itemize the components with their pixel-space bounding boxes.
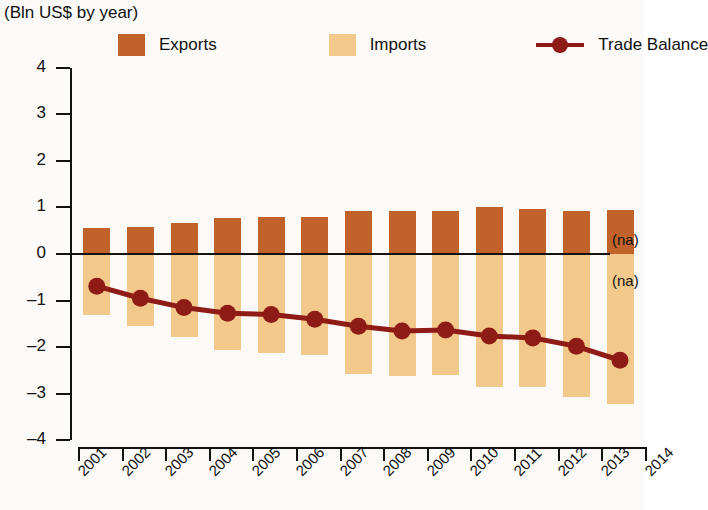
y-tick-label: 4 xyxy=(18,57,46,77)
y-tick-label: –3 xyxy=(18,383,46,403)
bar-imports-2001 xyxy=(83,254,110,315)
bar-exports-2004 xyxy=(214,218,241,254)
y-tick-label: –2 xyxy=(18,336,46,356)
x-tick-mark xyxy=(340,447,342,461)
y-tick-label: 1 xyxy=(18,196,46,216)
bar-imports-2009 xyxy=(432,254,459,375)
y-tick-mark xyxy=(56,300,70,302)
bar-exports-2005 xyxy=(258,217,285,254)
y-tick-label: 3 xyxy=(18,103,46,123)
y-tick-mark xyxy=(56,160,70,162)
x-tick-mark xyxy=(78,447,80,461)
bar-exports-2010 xyxy=(476,207,503,254)
na-annotation: (na) xyxy=(612,231,639,248)
x-tick-mark xyxy=(601,447,603,461)
y-tick-mark xyxy=(56,393,70,395)
y-tick-label: –4 xyxy=(18,429,46,449)
x-tick-mark xyxy=(558,447,560,461)
x-tick-mark xyxy=(122,447,124,461)
x-tick-mark xyxy=(645,447,647,461)
x-tick-mark xyxy=(470,447,472,461)
y-tick-mark xyxy=(56,113,70,115)
bar-imports-2006 xyxy=(301,254,328,355)
bar-imports-2007 xyxy=(345,254,372,374)
bar-exports-2003 xyxy=(171,223,198,254)
x-tick-mark xyxy=(514,447,516,461)
x-tick-mark xyxy=(427,447,429,461)
bar-imports-2002 xyxy=(127,254,154,326)
y-tick-mark xyxy=(56,346,70,348)
x-tick-mark xyxy=(296,447,298,461)
bar-exports-2008 xyxy=(389,211,416,254)
bar-imports-2012 xyxy=(563,254,590,397)
bar-exports-2002 xyxy=(127,227,154,254)
bar-exports-2007 xyxy=(345,211,372,254)
bar-imports-2010 xyxy=(476,254,503,387)
bar-imports-2003 xyxy=(171,254,198,337)
bar-exports-2009 xyxy=(432,211,459,254)
x-tick-mark xyxy=(383,447,385,461)
bar-exports-2001 xyxy=(83,228,110,254)
y-tick-label: 2 xyxy=(18,150,46,170)
y-tick-mark xyxy=(56,439,70,441)
bar-exports-2011 xyxy=(519,209,546,254)
na-annotation: (na) xyxy=(612,272,639,289)
bar-imports-2005 xyxy=(258,254,285,353)
y-tick-mark xyxy=(56,206,70,208)
bar-imports-2004 xyxy=(214,254,241,350)
bar-imports-2008 xyxy=(389,254,416,376)
y-tick-mark xyxy=(56,253,70,255)
bar-imports-2011 xyxy=(519,254,546,387)
x-tick-mark xyxy=(209,447,211,461)
x-tick-mark xyxy=(252,447,254,461)
y-tick-label: –1 xyxy=(18,290,46,310)
x-tick-mark xyxy=(165,447,167,461)
y-tick-label: 0 xyxy=(18,243,46,263)
zero-line xyxy=(70,253,610,255)
bar-exports-2012 xyxy=(563,211,590,254)
bar-exports-2006 xyxy=(301,217,328,254)
y-tick-mark xyxy=(56,67,70,69)
